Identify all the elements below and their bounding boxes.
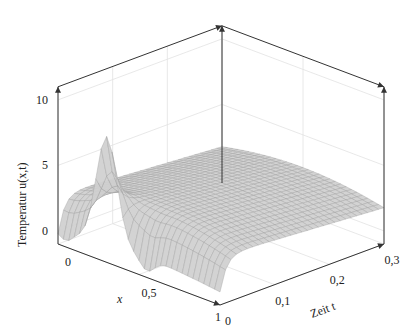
t-tick-label: 0,3 (385, 253, 400, 267)
x-tick-label: 1 (215, 310, 221, 324)
t-tick-label: 0,1 (275, 294, 290, 308)
grid-line (58, 39, 222, 100)
surface-plot: 051000,5100,10,20,3 x Zeit t Temperatur … (0, 0, 404, 334)
u-axis-label: Temperatur u(x,t) (15, 163, 29, 247)
x-tick-label: 0 (65, 255, 71, 269)
x-tick-label: 0,5 (142, 286, 157, 300)
x-axis-label: x (116, 292, 123, 306)
u-tick-label: 5 (42, 158, 48, 172)
t-axis-label: Zeit t (308, 299, 338, 321)
u-axis-arrow (55, 87, 61, 93)
u-tick-label: 0 (42, 224, 48, 238)
box-edge (58, 26, 222, 87)
surface-mesh (58, 137, 384, 292)
u-tick-label: 10 (36, 93, 48, 107)
t-tick-label: 0,2 (330, 273, 345, 287)
box-arrow (381, 87, 387, 93)
t-tick-label: 0 (225, 314, 231, 328)
t-axis-line (220, 244, 384, 305)
